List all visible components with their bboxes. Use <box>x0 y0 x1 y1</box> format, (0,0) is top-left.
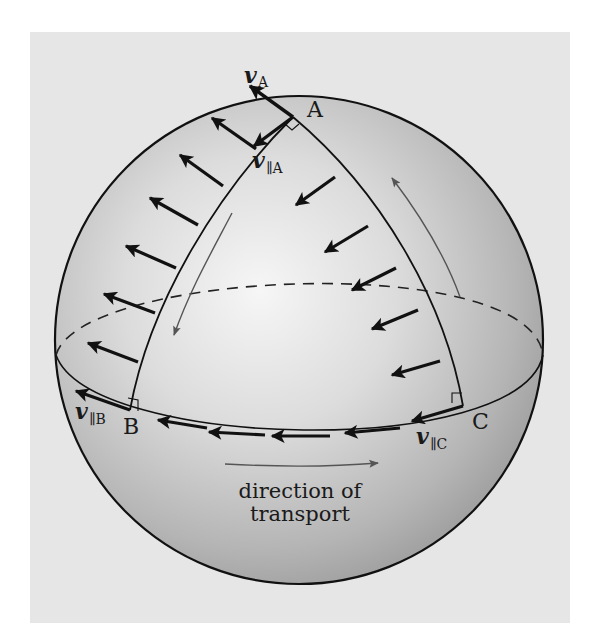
label-vParB-symbol: v <box>75 398 88 424</box>
parallel-transport-diagram: A B C v A v ∥A v ∥B v ∥C direction of tr… <box>0 0 600 643</box>
point-label-c: C <box>472 409 489 434</box>
point-label-a: A <box>306 97 324 122</box>
caption-line2: transport <box>250 502 350 526</box>
caption-line1: direction of <box>239 479 364 503</box>
label-vA-symbol: v <box>244 62 257 88</box>
label-vParA-subscript: ∥A <box>266 160 283 176</box>
label-vParA-symbol: v <box>252 147 265 173</box>
label-vParB-subscript: ∥B <box>89 411 106 427</box>
label-vA-subscript: A <box>257 74 269 90</box>
label-vParC-symbol: v <box>416 423 429 449</box>
label-vParC-subscript: ∥C <box>430 436 447 452</box>
point-label-b: B <box>123 414 139 439</box>
